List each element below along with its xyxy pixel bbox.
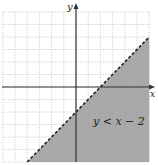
y-axis-label: y [66, 1, 73, 12]
x-axis-label: x [150, 89, 155, 99]
y-axis-arrow-icon [74, 3, 79, 9]
inequality-graph: y x y < x − 2 [0, 0, 158, 165]
inequality-label: y < x − 2 [92, 115, 145, 128]
